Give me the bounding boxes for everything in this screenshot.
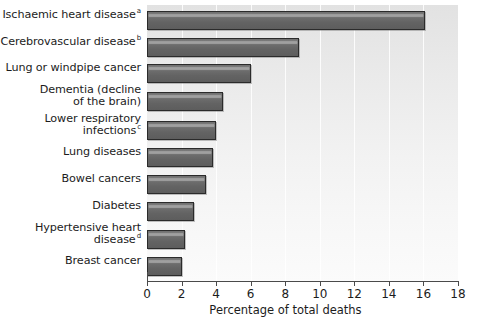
gridline-16 [423, 5, 424, 281]
x-tick-16 [423, 281, 424, 286]
x-tick-0 [147, 281, 148, 286]
category-label: Hypertensive heartdiseased [35, 222, 141, 247]
category-label-line: Diabetes [92, 200, 141, 212]
bar-highlight [149, 233, 183, 236]
gridline-14 [389, 5, 390, 281]
bar-highlight [149, 67, 249, 70]
bar-highlight [149, 205, 192, 208]
bar [147, 64, 251, 83]
footnote-marker: a [136, 7, 141, 15]
x-tick-2 [182, 281, 183, 286]
x-tick-label: 14 [374, 287, 404, 301]
category-label: Bowel cancers [62, 173, 141, 185]
footnote-marker: b [136, 34, 141, 42]
bar [147, 202, 194, 221]
bar-highlight [149, 14, 423, 17]
category-label: Lower respiratoryinfectionsc [44, 113, 141, 138]
footnote-marker: d [136, 232, 141, 240]
bar-chart: Ischaemic heart diseaseaCerebrovascular … [0, 0, 479, 320]
x-axis-line [147, 281, 459, 282]
x-tick-18 [458, 281, 459, 286]
category-label-line: Bowel cancers [62, 173, 141, 185]
bar-highlight [149, 151, 211, 154]
category-label: Breast cancer [65, 255, 141, 267]
bar-highlight [149, 124, 214, 127]
x-tick-label: 8 [270, 287, 300, 301]
bar-highlight [149, 178, 204, 181]
footnote-marker: c [136, 123, 141, 131]
x-tick-label: 0 [132, 287, 162, 301]
bar [147, 230, 185, 249]
bar-highlight [149, 260, 180, 263]
bar-highlight [149, 41, 297, 44]
x-tick-14 [389, 281, 390, 286]
category-label: Lung diseases [63, 146, 141, 158]
x-tick-10 [320, 281, 321, 286]
x-tick-label: 12 [339, 287, 369, 301]
category-label: Dementia (declineof the brain) [40, 84, 141, 109]
bar [147, 92, 223, 111]
category-label-line: diseased [35, 234, 141, 246]
category-label-line: of the brain) [40, 96, 141, 108]
x-tick-12 [354, 281, 355, 286]
category-label: Lung or windpipe cancer [5, 62, 141, 74]
bar [147, 257, 182, 276]
category-label-line: Breast cancer [65, 255, 141, 267]
gridline-10 [320, 5, 321, 281]
bar-highlight [149, 95, 221, 98]
plot-area [147, 5, 458, 281]
bar [147, 11, 425, 30]
gridline-12 [354, 5, 355, 281]
bar [147, 148, 213, 167]
x-tick-8 [285, 281, 286, 286]
x-tick-label: 16 [408, 287, 438, 301]
category-label: Ischaemic heart diseasea [2, 9, 141, 21]
x-tick-label: 18 [443, 287, 473, 301]
x-tick-label: 2 [167, 287, 197, 301]
category-label: Diabetes [92, 200, 141, 212]
category-label-line: Lung diseases [63, 146, 141, 158]
x-tick-4 [216, 281, 217, 286]
category-label: Cerebrovascular diseaseb [1, 36, 141, 48]
bar [147, 121, 216, 140]
bar [147, 175, 206, 194]
x-tick-6 [251, 281, 252, 286]
x-tick-label: 6 [236, 287, 266, 301]
x-tick-label: 10 [305, 287, 335, 301]
category-label-line: Ischaemic heart diseasea [2, 9, 141, 21]
category-label-line: infectionsc [44, 125, 141, 137]
bar [147, 38, 299, 57]
gridline-18 [458, 5, 459, 281]
category-label-line: Cerebrovascular diseaseb [1, 36, 141, 48]
x-axis-title: Percentage of total deaths [0, 303, 479, 317]
category-label-line: Lung or windpipe cancer [5, 62, 141, 74]
x-tick-label: 4 [201, 287, 231, 301]
